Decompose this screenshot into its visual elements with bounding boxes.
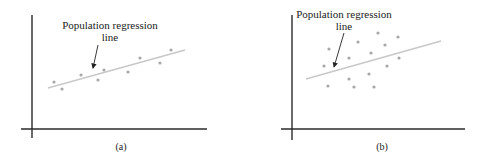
data-point bbox=[79, 73, 82, 76]
panel-a: Population regression line (a) bbox=[21, 15, 207, 153]
data-point bbox=[372, 85, 375, 88]
annotation-label-line2: line bbox=[102, 31, 119, 43]
data-point bbox=[102, 68, 105, 71]
data-point bbox=[397, 56, 400, 59]
data-point bbox=[347, 56, 350, 59]
panel-caption: (b) bbox=[376, 141, 388, 153]
regression-diagram: Population regression line (a) Populatio… bbox=[0, 0, 478, 161]
annotation-label: Population regression bbox=[62, 19, 158, 31]
annotation-label-line2: line bbox=[336, 20, 353, 32]
data-point bbox=[369, 51, 372, 54]
data-point bbox=[326, 84, 329, 87]
data-point bbox=[126, 70, 129, 73]
data-point bbox=[347, 77, 350, 80]
data-point bbox=[322, 64, 325, 67]
panel-caption: (a) bbox=[115, 141, 126, 153]
data-point bbox=[96, 78, 99, 81]
data-point bbox=[396, 35, 399, 38]
data-point bbox=[138, 56, 141, 59]
data-point bbox=[52, 80, 55, 83]
data-point bbox=[356, 40, 359, 43]
arrow-icon bbox=[334, 33, 344, 67]
data-point bbox=[169, 48, 172, 51]
data-points bbox=[322, 31, 400, 88]
population-regression-line bbox=[306, 41, 441, 79]
arrow-icon bbox=[93, 45, 98, 68]
panel-b: Population regression line (b) bbox=[281, 8, 465, 153]
annotation-label: Population regression bbox=[296, 8, 392, 20]
data-point bbox=[60, 87, 63, 90]
data-point bbox=[383, 43, 386, 46]
population-regression-line bbox=[48, 50, 185, 88]
data-point bbox=[385, 64, 388, 67]
data-point bbox=[327, 47, 330, 50]
data-point bbox=[352, 85, 355, 88]
data-point bbox=[376, 31, 379, 34]
data-point bbox=[158, 61, 161, 64]
data-point bbox=[367, 72, 370, 75]
